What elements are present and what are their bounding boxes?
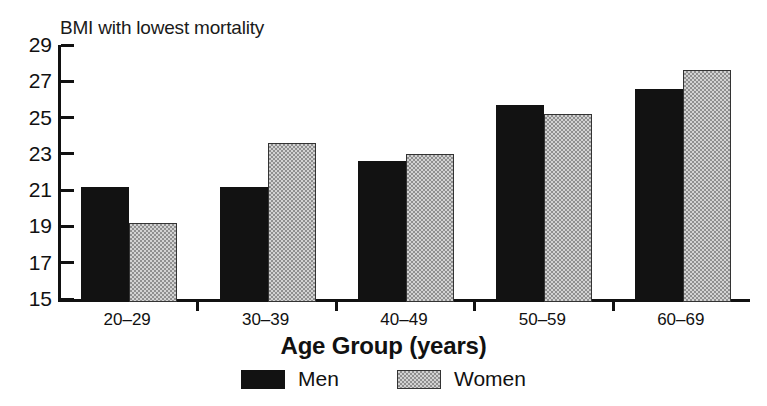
y-tick-mark (61, 152, 74, 155)
legend-label-women: Women (454, 367, 526, 391)
chart-title: BMI with lowest mortality (60, 17, 264, 39)
y-tick-label: 25 (29, 107, 52, 128)
bar-women-20-29 (129, 223, 177, 302)
legend-entry-women: Women (397, 367, 526, 391)
bar-women-40-49 (406, 154, 454, 302)
x-category-label: 20–29 (58, 310, 196, 330)
x-axis-title: Age Group (years) (0, 332, 767, 360)
legend-label-men: Men (298, 367, 339, 391)
y-axis-tick-labels: 1517192123252729 (0, 45, 52, 302)
x-category-label: 50–59 (473, 310, 611, 330)
bar-chart-figure: BMI with lowest mortality 15171921232527… (0, 0, 767, 406)
bar-women-50-59 (544, 114, 592, 302)
y-tick-mark (61, 189, 74, 192)
bar-men-40-49 (358, 161, 406, 302)
y-tick-mark (61, 44, 74, 47)
y-tick-mark (61, 225, 74, 228)
legend-swatch-women-icon (397, 370, 441, 389)
bar-men-20-29 (81, 187, 129, 302)
y-tick-label: 19 (29, 215, 52, 236)
y-tick-mark (61, 116, 74, 119)
bar-men-30-39 (220, 187, 268, 302)
y-tick-mark (61, 261, 74, 264)
bar-men-60-69 (635, 89, 683, 302)
legend-swatch-men-icon (241, 370, 285, 389)
y-tick-mark (61, 80, 74, 83)
bar-men-50-59 (496, 105, 544, 302)
y-tick-label: 21 (29, 179, 52, 200)
plot-area (58, 45, 750, 302)
y-tick-label: 23 (29, 143, 52, 164)
bar-women-60-69 (683, 70, 731, 302)
chart-legend: Men Women (0, 367, 767, 391)
bar-women-30-39 (268, 143, 316, 302)
y-tick-label: 15 (29, 288, 52, 309)
y-tick-label: 29 (29, 34, 52, 55)
legend-entry-men: Men (241, 367, 339, 391)
x-category-label: 30–39 (196, 310, 334, 330)
y-tick-mark (61, 298, 74, 301)
y-tick-label: 27 (29, 70, 52, 91)
x-category-label: 60–69 (612, 310, 750, 330)
x-category-label: 40–49 (335, 310, 473, 330)
y-tick-label: 17 (29, 252, 52, 273)
